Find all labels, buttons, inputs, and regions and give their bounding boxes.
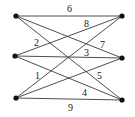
edge-weight-label: 3 — [84, 47, 89, 58]
edge-weight-label: 6 — [67, 3, 72, 14]
graph-svg: 6 8 2 7 3 1 5 4 9 — [0, 0, 135, 117]
bipartite-graph-diagram: 6 8 2 7 3 1 5 4 9 — [0, 0, 135, 117]
edge-weight-label: 7 — [100, 39, 105, 50]
node-L1 — [13, 13, 18, 18]
edge-weight-label: 8 — [84, 18, 89, 29]
edge-weight-label: 5 — [97, 70, 102, 81]
edges-layer — [15, 16, 122, 100]
node-L3 — [13, 95, 18, 100]
node-R1 — [119, 13, 124, 18]
edge-L2-R3 — [15, 56, 122, 100]
node-L2 — [12, 53, 17, 58]
node-R3 — [119, 97, 124, 102]
edge-weight-label: 4 — [82, 87, 87, 98]
edge-weight-label: 1 — [35, 70, 40, 81]
edge-weight-label: 2 — [34, 37, 39, 48]
node-R2 — [119, 55, 124, 60]
edge-L3-R3 — [16, 98, 122, 100]
edge-weight-label: 9 — [68, 102, 73, 113]
